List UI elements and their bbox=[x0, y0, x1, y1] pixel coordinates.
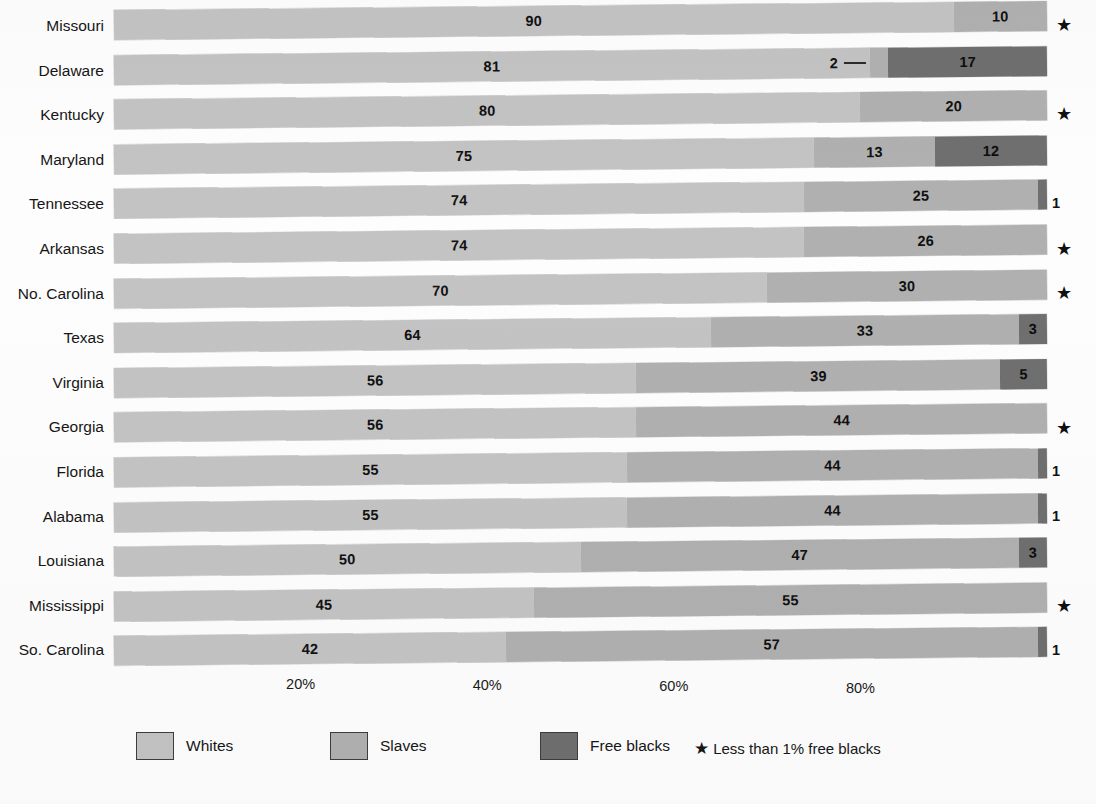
stacked-bar[interactable]: 81217 bbox=[114, 46, 1047, 85]
segment-value-outside: 1 bbox=[1052, 494, 1060, 538]
legend-item-whites[interactable]: Whites bbox=[136, 732, 233, 760]
segment-slaves[interactable]: 25 bbox=[804, 180, 1038, 212]
asterisk-icon: ★ bbox=[1056, 226, 1072, 270]
bar-container: 4555 bbox=[114, 591, 1047, 621]
segment-free-blacks[interactable]: 12 bbox=[935, 135, 1047, 166]
legend-label: Free blacks bbox=[590, 737, 670, 755]
segment-value: 39 bbox=[810, 368, 827, 384]
bar-container: 7030 bbox=[114, 279, 1047, 309]
category-label: Missouri bbox=[0, 4, 104, 48]
stacked-bar[interactable]: 64333 bbox=[114, 314, 1047, 353]
segment-whites[interactable]: 42 bbox=[114, 632, 506, 666]
chart-row: Tennessee74251 bbox=[0, 182, 1096, 226]
category-label: Delaware bbox=[0, 49, 104, 93]
chart-row: Missouri9010★ bbox=[0, 4, 1096, 48]
chart-row: Delaware81217 bbox=[0, 49, 1096, 93]
segment-whites[interactable]: 90 bbox=[114, 2, 954, 40]
category-label: So. Carolina bbox=[0, 628, 104, 672]
segment-free-blacks[interactable]: 3 bbox=[1019, 538, 1047, 568]
category-label: Georgia bbox=[0, 405, 104, 449]
segment-value: 44 bbox=[824, 457, 841, 473]
stacked-bar[interactable]: 5544 bbox=[114, 448, 1047, 487]
stacked-bar[interactable]: 5644 bbox=[114, 404, 1047, 443]
segment-slaves[interactable]: 39 bbox=[636, 359, 1000, 392]
segment-slaves[interactable]: 26 bbox=[804, 225, 1047, 257]
stacked-bar[interactable]: 9010 bbox=[114, 1, 1047, 40]
segment-whites[interactable]: 74 bbox=[114, 227, 805, 264]
segment-free-blacks[interactable]: 17 bbox=[888, 46, 1047, 78]
segment-free-blacks[interactable]: 3 bbox=[1019, 314, 1047, 344]
segment-whites[interactable]: 64 bbox=[114, 317, 711, 353]
segment-value: 2 bbox=[830, 55, 838, 71]
category-label: Texas bbox=[0, 316, 104, 360]
segment-slaves[interactable]: 44 bbox=[627, 448, 1038, 482]
stacked-bar[interactable]: 7426 bbox=[114, 225, 1047, 264]
segment-slaves[interactable]: 47 bbox=[580, 538, 1019, 572]
bar-container: 5544 bbox=[114, 457, 1047, 487]
segment-slaves[interactable]: 44 bbox=[627, 493, 1038, 527]
segment-whites[interactable]: 80 bbox=[114, 92, 861, 129]
segment-free-blacks[interactable] bbox=[1037, 493, 1047, 523]
segment-value: 42 bbox=[302, 641, 319, 657]
segment-value: 17 bbox=[959, 53, 976, 69]
segment-slaves[interactable]: 30 bbox=[767, 269, 1047, 302]
category-label: Alabama bbox=[0, 495, 104, 539]
segment-whites[interactable]: 45 bbox=[114, 587, 534, 621]
segment-slaves[interactable]: 13 bbox=[814, 136, 936, 167]
segment-slaves[interactable]: 33 bbox=[711, 314, 1019, 347]
segment-whites[interactable]: 56 bbox=[114, 408, 637, 443]
bar-container: 9010 bbox=[114, 11, 1047, 41]
segment-slaves[interactable]: 10 bbox=[954, 1, 1048, 32]
stacked-bar[interactable]: 7425 bbox=[114, 180, 1047, 219]
chart-row: Georgia5644★ bbox=[0, 405, 1096, 449]
segment-value: 47 bbox=[791, 547, 808, 563]
category-label: Tennessee bbox=[0, 182, 104, 226]
segment-free-blacks[interactable]: 5 bbox=[1000, 359, 1047, 389]
legend-label: Slaves bbox=[380, 737, 427, 755]
segment-whites[interactable]: 81 bbox=[114, 47, 870, 84]
chart-row: Alabama55441 bbox=[0, 495, 1096, 539]
segment-whites[interactable]: 50 bbox=[114, 542, 581, 576]
segment-value: 25 bbox=[913, 188, 930, 204]
segment-value: 5 bbox=[1019, 366, 1027, 382]
segment-value: 3 bbox=[1029, 321, 1037, 337]
stacked-bar[interactable]: 50473 bbox=[114, 538, 1047, 577]
segment-free-blacks[interactable] bbox=[1037, 627, 1047, 657]
stacked-bar[interactable]: 7030 bbox=[114, 269, 1047, 308]
chart-row: Virginia56395 bbox=[0, 361, 1096, 405]
segment-whites[interactable]: 55 bbox=[114, 452, 627, 487]
segment-value: 81 bbox=[483, 58, 500, 74]
stacked-bar[interactable]: 5544 bbox=[114, 493, 1047, 532]
segment-whites[interactable]: 55 bbox=[114, 497, 627, 532]
segment-value: 55 bbox=[362, 506, 379, 522]
x-axis: 20%40%60%80% bbox=[114, 676, 1047, 706]
stacked-bar[interactable]: 4257 bbox=[114, 627, 1047, 666]
stacked-bar[interactable]: 56395 bbox=[114, 359, 1047, 398]
chart-row: Kentucky8020★ bbox=[0, 93, 1096, 137]
segment-slaves[interactable]: 57 bbox=[506, 627, 1038, 662]
legend-item-free-blacks[interactable]: Free blacks bbox=[540, 732, 670, 760]
stacked-bar[interactable]: 751312 bbox=[114, 135, 1047, 174]
asterisk-icon: ★ bbox=[1056, 2, 1072, 46]
value-callout: 2 bbox=[830, 54, 870, 70]
segment-whites[interactable]: 56 bbox=[114, 363, 637, 398]
chart-row: Mississippi4555★ bbox=[0, 584, 1096, 628]
segment-slaves[interactable]: 55 bbox=[534, 583, 1047, 618]
bar-container: 50473 bbox=[114, 546, 1047, 576]
segment-whites[interactable]: 75 bbox=[114, 137, 814, 174]
stacked-bar[interactable]: 8020 bbox=[114, 90, 1047, 129]
legend-item-slaves[interactable]: Slaves bbox=[330, 732, 427, 760]
segment-slaves[interactable]: 44 bbox=[636, 404, 1047, 438]
chart-row: Texas64333 bbox=[0, 316, 1096, 360]
stacked-bar[interactable]: 4555 bbox=[114, 583, 1047, 622]
segment-value: 56 bbox=[367, 372, 384, 388]
segment-slaves[interactable]: 2 bbox=[870, 47, 889, 77]
segment-whites[interactable]: 70 bbox=[114, 272, 767, 308]
segment-free-blacks[interactable] bbox=[1037, 180, 1047, 210]
segment-slaves[interactable]: 20 bbox=[860, 90, 1047, 122]
segment-whites[interactable]: 74 bbox=[114, 182, 805, 219]
segment-value: 45 bbox=[316, 596, 333, 612]
segment-free-blacks[interactable] bbox=[1037, 448, 1047, 478]
category-label: Florida bbox=[0, 450, 104, 494]
legend-swatch bbox=[330, 732, 368, 760]
